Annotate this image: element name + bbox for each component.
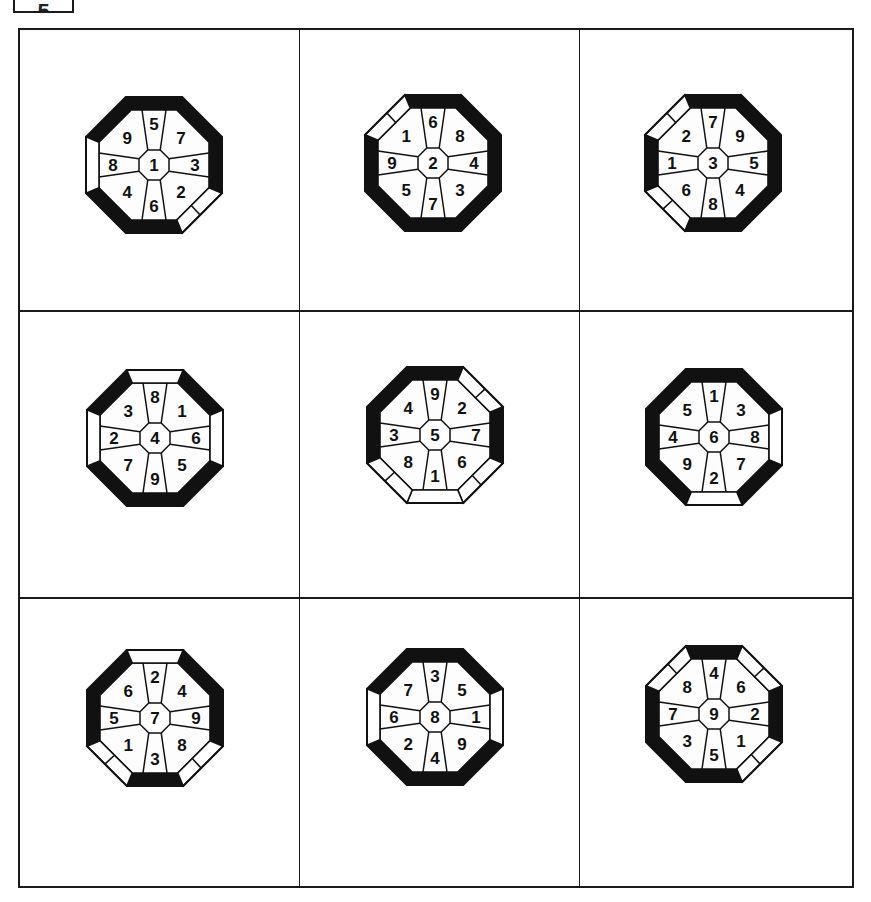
edge-right-white — [769, 409, 782, 465]
octagon-diagrams-layer: 5732648916843759127954861238165972349276… — [0, 0, 871, 902]
sector-number-top: 8 — [150, 388, 159, 407]
sector-number-top-left: 1 — [401, 127, 410, 146]
sector-number-bottom-right: 5 — [177, 456, 186, 475]
sector-number-top-left: 8 — [682, 678, 691, 697]
center-number: 5 — [430, 426, 439, 445]
sector-number-bottom-left: 9 — [682, 455, 691, 474]
sector-number-right: 4 — [469, 154, 479, 173]
sector-number-top-left: 3 — [123, 402, 132, 421]
sector-number-top-right: 6 — [736, 678, 745, 697]
edge-top-white — [127, 370, 183, 383]
sector-number-top-right: 1 — [177, 402, 186, 421]
sector-number-top-left: 9 — [122, 129, 131, 148]
octagon-diagram-7: 249831567 — [87, 650, 223, 786]
sector-number-left: 7 — [668, 705, 677, 724]
sector-number-left: 6 — [389, 708, 398, 727]
sector-number-top-right: 7 — [176, 129, 185, 148]
sector-number-right: 3 — [190, 156, 199, 175]
sector-number-top-left: 4 — [403, 399, 413, 418]
edge-right-white — [490, 689, 503, 745]
sector-number-right: 7 — [471, 426, 480, 445]
edge-left-white — [86, 137, 99, 193]
sector-number-bottom-right: 9 — [457, 735, 466, 754]
sector-number-bottom-right: 4 — [735, 181, 745, 200]
sector-number-top-right: 9 — [735, 127, 744, 146]
puzzle-number-label: 5 — [13, 0, 74, 13]
sector-number-right: 9 — [191, 709, 200, 728]
sector-number-bottom-right: 2 — [176, 183, 185, 202]
sector-number-left: 1 — [667, 154, 676, 173]
sector-number-top-left: 6 — [123, 682, 132, 701]
center-number: 9 — [709, 705, 718, 724]
sector-number-top-left: 2 — [681, 127, 690, 146]
sector-number-right: 8 — [750, 428, 759, 447]
octagon-diagram-4: 816597234 — [87, 370, 223, 506]
sector-number-top: 1 — [709, 387, 718, 406]
center-number: 8 — [430, 708, 439, 727]
center-number: 2 — [428, 154, 437, 173]
octagon-diagram-9: 462153789 — [646, 646, 782, 782]
octagon-diagram-8: 351942678 — [367, 649, 503, 785]
sector-number-left: 5 — [109, 709, 118, 728]
sector-number-bottom-right: 6 — [457, 453, 466, 472]
sector-number-bottom-left: 7 — [123, 456, 132, 475]
sector-number-top-right: 8 — [455, 127, 464, 146]
edge-left-white — [87, 410, 100, 466]
octagon-diagram-6: 138729456 — [646, 369, 782, 505]
octagon-diagram-2: 684375912 — [365, 95, 501, 231]
sector-number-top: 5 — [149, 115, 158, 134]
sector-number-top-right: 2 — [457, 399, 466, 418]
sector-number-right: 1 — [471, 708, 480, 727]
center-number: 3 — [708, 154, 717, 173]
sector-number-bottom: 1 — [430, 467, 439, 486]
sector-number-bottom-right: 7 — [736, 455, 745, 474]
sector-number-bottom: 4 — [430, 749, 440, 768]
sector-number-left: 9 — [387, 154, 396, 173]
sector-number-top-left: 5 — [682, 401, 691, 420]
sector-number-top: 9 — [430, 385, 439, 404]
sector-number-top-right: 5 — [457, 681, 466, 700]
sector-number-left: 3 — [389, 426, 398, 445]
octagon-diagram-5: 927618345 — [367, 367, 503, 503]
edge-bottom-white — [686, 492, 742, 505]
sector-number-bottom: 3 — [150, 750, 159, 769]
sector-number-top: 3 — [430, 667, 439, 686]
sector-number-bottom-left: 8 — [403, 453, 412, 472]
center-number: 6 — [709, 428, 718, 447]
sector-number-bottom-left: 1 — [123, 736, 132, 755]
sector-number-top: 7 — [708, 113, 717, 132]
sector-number-bottom-left: 5 — [401, 181, 410, 200]
sector-number-bottom: 6 — [149, 197, 158, 216]
sector-number-bottom: 2 — [709, 469, 718, 488]
sector-number-bottom: 5 — [709, 746, 718, 765]
sector-number-bottom-left: 3 — [682, 732, 691, 751]
sector-number-left: 8 — [108, 156, 117, 175]
sector-number-right: 5 — [749, 154, 758, 173]
sector-number-top-left: 7 — [403, 681, 412, 700]
edge-top-white — [127, 650, 183, 663]
center-number: 7 — [150, 709, 159, 728]
sector-number-right: 6 — [191, 429, 200, 448]
sector-number-top: 6 — [428, 113, 437, 132]
sector-number-bottom-right: 1 — [736, 732, 745, 751]
sector-number-bottom-left: 6 — [681, 181, 690, 200]
sector-number-top-right: 4 — [177, 682, 187, 701]
sector-number-bottom-left: 4 — [122, 183, 132, 202]
edge-left-white — [367, 689, 380, 745]
sector-number-left: 4 — [668, 428, 678, 447]
center-number: 1 — [149, 156, 158, 175]
sector-number-top: 2 — [150, 668, 159, 687]
sector-number-top-right: 3 — [736, 401, 745, 420]
sector-number-bottom: 8 — [708, 195, 717, 214]
sector-number-bottom: 9 — [150, 470, 159, 489]
edge-bottom-white — [407, 490, 463, 503]
center-number: 4 — [150, 429, 160, 448]
sector-number-bottom-left: 2 — [403, 735, 412, 754]
sector-number-right: 2 — [750, 705, 759, 724]
sector-number-bottom: 7 — [428, 195, 437, 214]
puzzle-number-text: 5 — [37, 1, 49, 13]
octagon-diagram-1: 573264891 — [86, 97, 222, 233]
sector-number-bottom-right: 8 — [177, 736, 186, 755]
sector-number-bottom-right: 3 — [455, 181, 464, 200]
edge-right-white — [210, 410, 223, 466]
